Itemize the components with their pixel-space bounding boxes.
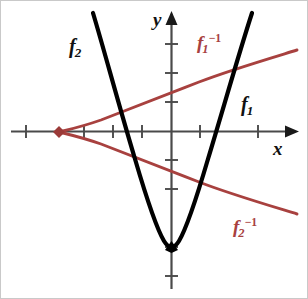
- curve-label-f2-inverse: f2−1: [233, 217, 257, 239]
- curve-label-f1-sub: 1: [247, 103, 254, 118]
- axes-group: [11, 11, 299, 289]
- curve-label-f2-inverse-sub: 2: [238, 226, 244, 240]
- point-red-vertex: [53, 126, 65, 138]
- curve-label-f2-sub: 2: [75, 45, 82, 60]
- y-axis-label: y: [153, 10, 161, 29]
- curve-label-f1: f1: [241, 94, 253, 117]
- curve-label-f2: f2: [69, 36, 81, 59]
- curve-label-f1-inverse-sub: 1: [202, 42, 208, 56]
- x-axis-label: x: [273, 139, 283, 158]
- curve-label-f1-inverse: f1−1: [197, 33, 221, 55]
- curve-label-f1-inverse-sup: −1: [209, 32, 221, 45]
- x-axis-arrowhead: [285, 126, 299, 138]
- curve-label-f2-inverse-sup: −1: [245, 216, 257, 229]
- plot-canvas: [1, 1, 308, 299]
- graph-figure: f2 y f1−1 f1 x f2−1: [0, 0, 308, 299]
- y-axis-arrowhead: [166, 11, 178, 25]
